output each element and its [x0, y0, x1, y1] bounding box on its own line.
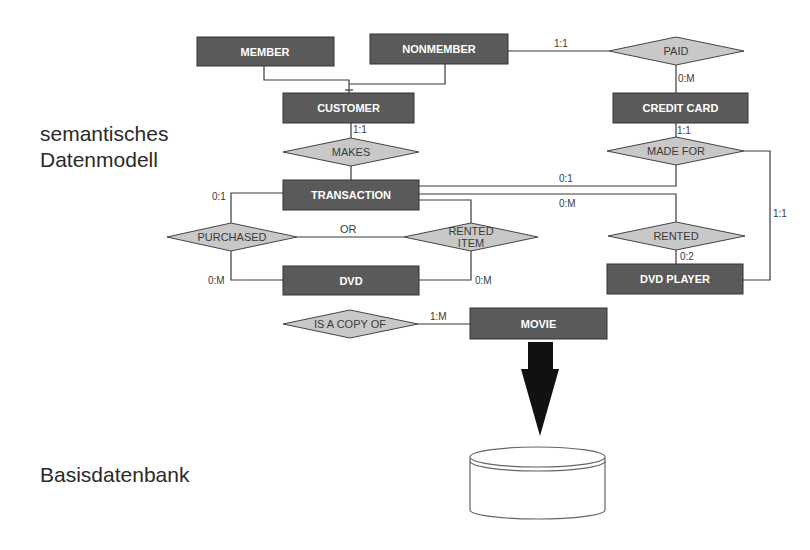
cardinality-purchased-dvd: 0:M: [208, 275, 225, 286]
entity-member-label: MEMBER: [241, 46, 290, 58]
cardinality-rented-dvdplayer: 0:2: [680, 251, 694, 262]
relationship-makes[interactable]: MAKES: [283, 138, 419, 166]
cardinality-madefor-dvdplayer: 1:1: [773, 208, 787, 219]
relationship-purchased[interactable]: PURCHASED: [167, 223, 297, 251]
relationship-is-a-copy-of-label: IS A COPY OF: [314, 318, 386, 330]
connector-purchased-dvd: [231, 251, 283, 280]
cardinality-renteditem-dvd: 0:M: [475, 275, 492, 286]
entity-credit-card[interactable]: CREDIT CARD: [613, 93, 748, 123]
entity-customer-label: CUSTOMER: [317, 102, 380, 114]
or-annotation: OR: [340, 223, 357, 235]
connector-transaction-renteditem: [419, 200, 471, 223]
cardinality-paid-creditcard: 0:M: [678, 73, 695, 84]
entity-transaction[interactable]: TRANSACTION: [283, 180, 419, 210]
entity-transaction-label: TRANSACTION: [311, 189, 391, 201]
relationship-rented-item[interactable]: RENTED ITEM: [404, 223, 538, 251]
entity-dvd[interactable]: DVD: [283, 266, 419, 295]
relationship-rented-label: RENTED: [653, 230, 698, 242]
connector-transaction-purchased: [231, 193, 283, 223]
cardinality-transaction-purchased: 0:1: [212, 191, 226, 202]
relationship-paid-label: PAID: [664, 45, 689, 57]
relationship-made-for-label: MADE FOR: [647, 145, 705, 157]
cardinality-nonmember-paid: 1:1: [554, 38, 568, 49]
relationship-is-a-copy-of[interactable]: IS A COPY OF: [283, 310, 418, 338]
connector-renteditem-dvd: [419, 251, 471, 280]
connector-member-customer: [264, 66, 349, 93]
cardinality-customer-makes: 1:1: [353, 124, 367, 135]
entity-movie[interactable]: MOVIE: [470, 308, 607, 339]
cardinality-creditcard-madefor: 1:1: [677, 125, 691, 136]
entity-dvd-player-label: DVD PLAYER: [640, 273, 710, 285]
cardinality-copy-movie: 1:M: [430, 311, 447, 322]
relationship-rented-item-label-line2: ITEM: [458, 237, 484, 249]
entity-movie-label: MOVIE: [521, 318, 556, 330]
connector-transaction-madefor: [419, 165, 676, 186]
relationship-rented-item-label-line1: RENTED: [448, 225, 493, 237]
er-diagram: MEMBER NONMEMBER CUSTOMER CREDIT CARD TR…: [0, 0, 810, 550]
relationship-paid[interactable]: PAID: [609, 37, 744, 65]
connector-madefor-dvdplayer: [743, 151, 770, 280]
entity-credit-card-label: CREDIT CARD: [643, 102, 719, 114]
cardinality-transaction-rented: 0:M: [559, 198, 576, 209]
entity-nonmember[interactable]: NONMEMBER: [370, 34, 508, 64]
relationship-rented[interactable]: RENTED: [608, 222, 745, 250]
entity-member[interactable]: MEMBER: [197, 37, 334, 66]
down-arrow-icon: [521, 342, 559, 436]
entity-customer[interactable]: CUSTOMER: [283, 93, 414, 123]
database-cylinder-icon: [470, 447, 605, 519]
relationship-made-for[interactable]: MADE FOR: [607, 137, 744, 165]
connector-transaction-rented: [419, 194, 676, 222]
connector-nonmember-customer: [349, 64, 445, 84]
entity-dvd-player[interactable]: DVD PLAYER: [607, 264, 743, 294]
entity-dvd-label: DVD: [339, 275, 362, 287]
entity-nonmember-label: NONMEMBER: [402, 43, 475, 55]
relationship-makes-label: MAKES: [332, 146, 371, 158]
cardinality-transaction-madefor: 0:1: [559, 173, 573, 184]
relationship-purchased-label: PURCHASED: [197, 231, 266, 243]
